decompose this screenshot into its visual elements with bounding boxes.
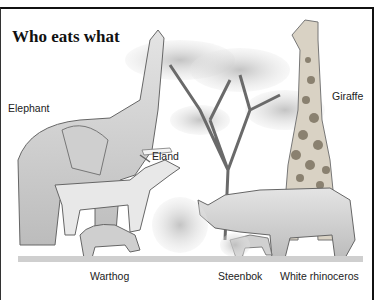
- label-giraffe: Giraffe: [332, 90, 363, 102]
- label-white-rhinoceros: White rhinoceros: [280, 270, 359, 282]
- label-steenbok: Steenbok: [218, 270, 262, 282]
- label-warthog: Warthog: [90, 270, 129, 282]
- elephant-icon: [18, 30, 172, 245]
- label-eland: Eland: [152, 150, 179, 162]
- grass-strip: [18, 256, 363, 262]
- label-elephant: Elephant: [8, 102, 49, 114]
- diagram-title: Who eats what: [12, 27, 120, 47]
